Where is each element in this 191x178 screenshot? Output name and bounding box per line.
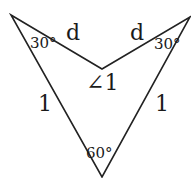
angle-inner-label: ∠1 (86, 70, 118, 95)
diagram-canvas: 30° 30° 60° ∠1 d d 1 1 (0, 0, 191, 178)
angle-bottom-label: 60° (86, 144, 113, 162)
side-left-top-label: d (66, 20, 80, 45)
side-right-top-label: d (130, 20, 144, 45)
side-left-label: 1 (38, 91, 52, 116)
side-right-label: 1 (155, 91, 169, 116)
angle-top-left-label: 30° (30, 34, 57, 52)
angle-top-right-label: 30° (154, 35, 181, 53)
